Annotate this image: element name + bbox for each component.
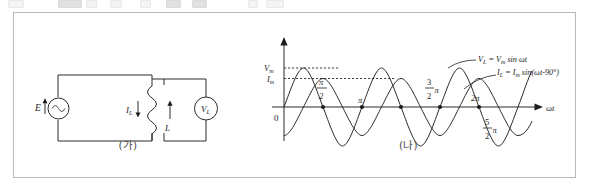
voltage-equation: VL = Vm sin ωt bbox=[478, 55, 528, 65]
svg-text:2: 2 bbox=[427, 91, 431, 101]
toolbar-item[interactable] bbox=[266, 0, 284, 8]
toolbar-item[interactable] bbox=[192, 0, 207, 8]
toolbar-item[interactable] bbox=[86, 0, 97, 8]
x-tick-pi-over-2: π 2 bbox=[317, 77, 328, 101]
toolbar-item[interactable] bbox=[166, 0, 181, 8]
inductance-label: L bbox=[164, 123, 170, 133]
x-axis bbox=[272, 103, 543, 110]
x-tick-3pi-over-2: 3 2 π bbox=[425, 77, 440, 101]
circuit-panel: E IL L bbox=[14, 13, 242, 177]
figure-frame: E IL L bbox=[13, 12, 576, 178]
svg-text:π: π bbox=[435, 85, 440, 95]
inductor-coil-icon bbox=[148, 79, 157, 141]
svg-text:2: 2 bbox=[319, 91, 324, 101]
svg-text:5: 5 bbox=[485, 117, 489, 127]
toolbar-item[interactable] bbox=[248, 0, 258, 8]
current-equation: IL = Im sin(ωt-90°) bbox=[496, 68, 559, 78]
voltmeter-label: VL bbox=[201, 104, 211, 115]
x-axis-label: ωt bbox=[546, 103, 555, 113]
axis-point bbox=[399, 105, 403, 109]
y-tick-im: Im bbox=[266, 74, 275, 85]
axis-point bbox=[321, 105, 325, 109]
x-tick-pi: π bbox=[358, 95, 363, 105]
inductor-current-arrow-icon bbox=[136, 101, 141, 118]
waveform-chart: ωt Vm Im 0 π 2 π bbox=[242, 13, 575, 179]
source-label: E bbox=[34, 103, 41, 113]
toolbar-item[interactable] bbox=[110, 0, 122, 8]
caption-graph: (나) bbox=[242, 137, 575, 152]
current-leader-line bbox=[464, 75, 496, 89]
origin-label: 0 bbox=[274, 113, 279, 123]
x-tick-2pi: 2π bbox=[471, 93, 480, 103]
inductor-voltage-arrow-icon bbox=[167, 101, 172, 120]
source-emf-arrow bbox=[43, 98, 48, 114]
voltage-leader-line bbox=[448, 60, 476, 68]
inductor-current-label: IL bbox=[125, 105, 133, 116]
axis-point bbox=[438, 105, 442, 109]
graph-panel: ωt Vm Im 0 π 2 π bbox=[242, 13, 575, 177]
toolbar-item[interactable] bbox=[8, 0, 24, 8]
axis-point bbox=[360, 105, 364, 109]
caption-circuit: (가) bbox=[14, 137, 242, 152]
toolbar-item[interactable] bbox=[140, 0, 151, 8]
y-axis bbox=[280, 37, 287, 141]
svg-text:π: π bbox=[493, 125, 498, 135]
circuit-diagram: E IL L bbox=[14, 13, 242, 179]
axis-point bbox=[477, 105, 481, 109]
toolbar-item[interactable] bbox=[58, 0, 82, 8]
svg-text:3: 3 bbox=[427, 77, 431, 87]
cropped-toolbar-strip bbox=[0, 0, 592, 9]
svg-text:π: π bbox=[319, 77, 324, 87]
y-tick-vm: Vm bbox=[264, 63, 274, 74]
